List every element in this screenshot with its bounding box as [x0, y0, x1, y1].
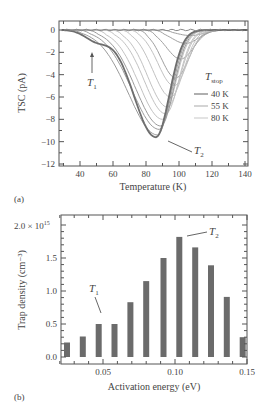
x-tick-label: 60 [109, 169, 119, 179]
x-tick-label: 80 [142, 169, 152, 179]
panel-b-x-axis-label: Activation energy (eV) [108, 381, 201, 393]
panel-b-trap-density-plot: 0.050.100.150.00.51.01.5 2.0 × 1015 T1 T… [14, 215, 255, 402]
trap-density-bar [143, 281, 149, 357]
annotation-t1-b: T1 [89, 282, 101, 313]
y-tick-label: −6 [45, 92, 55, 102]
x-tick-label: 120 [205, 169, 219, 179]
trap-density-bar [240, 337, 246, 357]
figure: 4060801001201400−2−4−6−8−10−12 Tstop 40 … [0, 0, 265, 420]
annotation-t1: T1 [87, 52, 97, 91]
svg-text:T2: T2 [194, 144, 204, 159]
trap-density-bar [127, 302, 133, 357]
panel-a-label: (a) [14, 194, 24, 204]
trap-density-bar [80, 337, 86, 358]
y-tick-label: 0 [51, 25, 56, 35]
svg-text:T1: T1 [87, 76, 97, 91]
y-tick-label: 0.0 [46, 352, 58, 362]
x-tick-label: 0.10 [167, 367, 183, 377]
x-tick-label: 40 [76, 169, 86, 179]
trap-density-bars [64, 237, 246, 357]
legend-label-40k: 40 K [211, 89, 229, 99]
y-tick-label: −2 [45, 47, 55, 57]
y-tick-label: −8 [45, 114, 55, 124]
legend-label-55k: 55 K [211, 101, 229, 111]
trap-density-bar [192, 247, 198, 357]
svg-text:T2: T2 [209, 225, 219, 240]
legend: Tstop 40 K 55 K 80 K [194, 70, 229, 123]
trap-density-bar [161, 258, 167, 357]
panel-a-x-axis-label: Temperature (K) [120, 181, 187, 193]
panel-b-y-top-label: 2.0 × 1015 [14, 220, 50, 231]
y-tick-label: −10 [41, 137, 56, 147]
y-tick-label: 1.0 [46, 286, 58, 296]
panel-a-tsc-plot: 4060801001201400−2−4−6−8−10−12 Tstop 40 … [14, 21, 252, 204]
trap-density-bar [64, 343, 70, 358]
y-tick-label: 1.5 [46, 253, 58, 263]
trap-density-bar [224, 297, 230, 357]
trap-density-bar [112, 324, 118, 357]
panel-b-y-axis-label: Trap density (cm⁻³) [16, 250, 28, 330]
y-tick-label: 0.5 [46, 319, 58, 329]
x-tick-label: 100 [172, 169, 186, 179]
x-tick-label: 0.15 [239, 367, 255, 377]
panel-b-label: (b) [14, 392, 25, 402]
panel-a-y-axis-label: TSC (pA) [16, 73, 28, 113]
svg-text:T1: T1 [89, 282, 99, 297]
x-tick-label: 140 [238, 169, 252, 179]
x-tick-label: 0.05 [95, 367, 111, 377]
legend-title: Tstop [205, 70, 223, 85]
trap-density-bar [176, 237, 182, 357]
y-tick-label: −4 [45, 70, 55, 80]
panel-b-ticks [60, 215, 247, 364]
trap-density-bar [96, 324, 102, 357]
annotation-t2-b: T2 [187, 225, 219, 240]
annotation-t2: T2 [168, 141, 204, 159]
legend-label-80k: 80 K [211, 113, 229, 123]
y-tick-label: −12 [41, 159, 55, 169]
trap-density-bar [208, 265, 214, 357]
